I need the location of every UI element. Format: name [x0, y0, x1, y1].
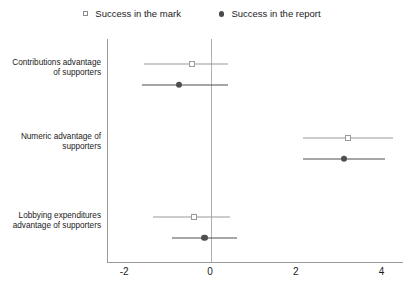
category-label-line: of supporters [0, 68, 101, 78]
point-estimate-square [189, 61, 195, 67]
legend-label-report: Success in the report [231, 9, 320, 19]
chart-legend: Success in the mark Success in the repor… [0, 9, 404, 19]
plot-area [107, 39, 403, 263]
confidence-interval-line [144, 63, 228, 64]
open-square-icon [83, 11, 88, 16]
estimate-row [108, 232, 403, 243]
point-estimate-square [345, 135, 351, 141]
estimate-row [108, 58, 403, 69]
zero-reference-line [211, 39, 212, 262]
category-label-line: Numeric advantage of [0, 132, 101, 142]
estimate-row [108, 79, 403, 90]
point-estimate-circle [341, 155, 348, 162]
legend-entry-report: Success in the report [219, 9, 321, 19]
category-label-line: supporters [0, 142, 101, 152]
category-label-lobbying: Lobbying expenditures advantage of suppo… [0, 211, 101, 230]
x-axis-tick-label: -2 [120, 266, 129, 277]
legend-entry-mark: Success in the mark [83, 9, 181, 19]
point-estimate-circle [176, 81, 183, 88]
legend-label-mark: Success in the mark [95, 9, 181, 19]
point-estimate-circle [201, 234, 208, 241]
category-label-numeric: Numeric advantage of supporters [0, 132, 101, 151]
category-label-line: Contributions advantage [0, 58, 101, 68]
x-axis-tick-label: 2 [293, 266, 299, 277]
point-estimate-square [191, 214, 197, 220]
x-axis-tick-label: 4 [379, 266, 385, 277]
category-label-contributions: Contributions advantage of supporters [0, 58, 101, 77]
estimate-row [108, 211, 403, 222]
category-label-line: Lobbying expenditures [0, 211, 101, 221]
filled-circle-icon [219, 11, 225, 17]
coefficient-plot: Success in the mark Success in the repor… [0, 0, 404, 291]
confidence-interval-line [142, 84, 228, 85]
x-axis-tick-label: 0 [207, 266, 213, 277]
estimate-row [108, 132, 403, 143]
category-label-line: advantage of supporters [0, 221, 101, 231]
estimate-row [108, 153, 403, 164]
